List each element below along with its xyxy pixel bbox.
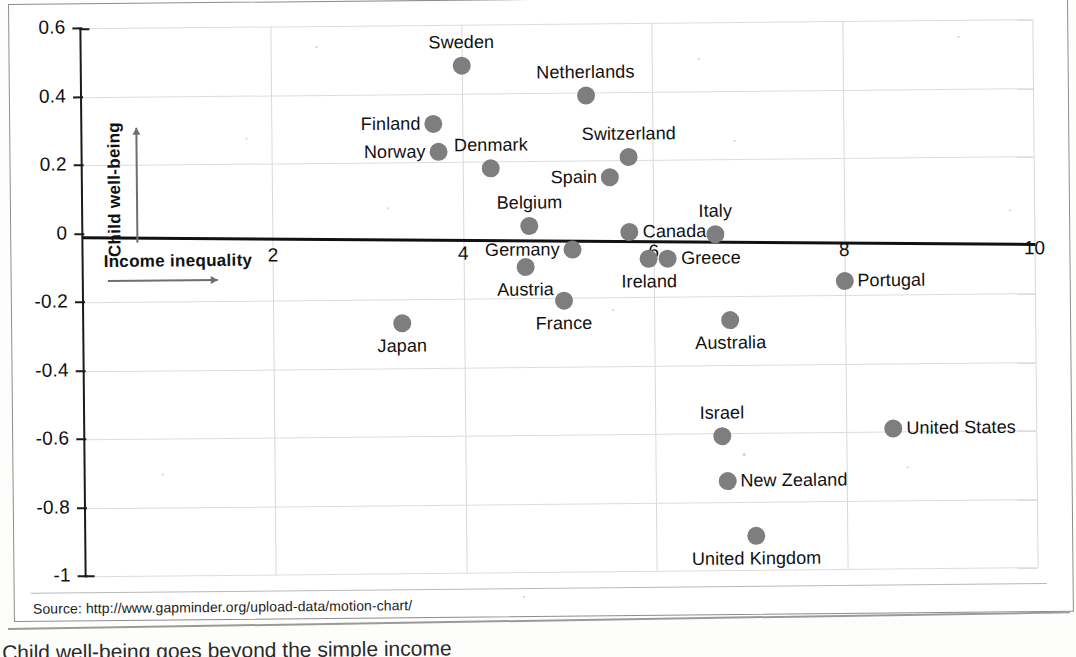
data-point-label: United States <box>906 416 1016 438</box>
data-points-layer: SwedenNetherlandsFinlandNorwayDenmarkSwi… <box>0 0 1073 5</box>
data-point-label: Australia <box>695 332 766 354</box>
scan-speckle <box>162 474 164 476</box>
data-point-label: Japan <box>377 335 427 356</box>
data-point[interactable] <box>564 241 582 259</box>
y-tick-mark <box>77 507 87 509</box>
data-point-label: United Kingdom <box>692 547 822 569</box>
data-point-label: Denmark <box>454 134 528 156</box>
data-point-label: Norway <box>364 141 426 163</box>
scan-speckle <box>1009 209 1011 211</box>
y-tick-mark <box>76 370 86 372</box>
data-point[interactable] <box>835 272 853 290</box>
gridline-horizontal <box>85 499 1037 509</box>
data-point[interactable] <box>482 159 500 177</box>
data-point-label: Israel <box>700 403 745 424</box>
x-tick-label: 10 <box>1024 237 1045 259</box>
data-point-label: Portugal <box>857 270 925 292</box>
data-point[interactable] <box>521 217 539 235</box>
scan-speckle <box>733 140 735 142</box>
scan-speckle <box>523 596 525 598</box>
y-tick-mark <box>73 96 83 98</box>
x-axis-description: Income inequality <box>104 251 253 272</box>
data-point-label: Finland <box>361 114 421 136</box>
data-point-label: Italy <box>698 201 732 222</box>
data-point[interactable] <box>706 225 724 243</box>
scan-speckle <box>387 207 389 209</box>
y-tick-mark <box>78 575 88 577</box>
source-note: Source: http://www.gapminder.org/upload-… <box>33 597 412 617</box>
data-point[interactable] <box>601 168 619 186</box>
data-point-label: Greece <box>681 248 741 270</box>
gridline-horizontal <box>81 88 1033 98</box>
scan-speckle <box>698 58 700 60</box>
y-axis-ticks: 0.60.40.20-0.2-0.4-0.6-0.8-1 <box>0 0 1073 5</box>
x-tick-label: 4 <box>458 242 469 264</box>
y-tick-label: 0 <box>56 222 67 244</box>
data-point[interactable] <box>620 148 638 166</box>
data-point-label: France <box>536 313 593 335</box>
data-point[interactable] <box>555 292 573 310</box>
y-axis-description: Child well-being <box>104 122 125 257</box>
y-tick-label: 0.2 <box>40 153 67 175</box>
data-point[interactable] <box>713 427 731 445</box>
y-tick-label: -1 <box>53 564 71 586</box>
data-point[interactable] <box>516 258 534 276</box>
scan-speckle <box>742 453 745 456</box>
data-point[interactable] <box>718 472 736 490</box>
y-tick-label: -0.6 <box>36 427 70 449</box>
data-point[interactable] <box>424 115 442 133</box>
x-axis-ticks: 246810 <box>0 0 1073 5</box>
y-tick-label: -0.2 <box>34 290 68 312</box>
data-point[interactable] <box>659 250 677 268</box>
scan-speckle <box>957 36 959 38</box>
data-point[interactable] <box>640 250 658 268</box>
data-point[interactable] <box>747 527 765 545</box>
gridline-horizontal <box>86 567 1038 577</box>
data-point-label: Sweden <box>428 32 494 54</box>
gridline-horizontal <box>80 19 1032 29</box>
y-tick-mark <box>74 164 84 166</box>
data-point[interactable] <box>393 314 411 332</box>
data-point[interactable] <box>884 419 902 437</box>
data-point-label: Netherlands <box>536 61 634 83</box>
source-divider <box>31 583 1047 594</box>
scatter-chart: 0.60.40.20-0.2-0.4-0.6-0.8-1 246810 Chil… <box>0 0 1076 657</box>
data-point-label: Canada <box>643 221 707 243</box>
data-point-label: Switzerland <box>582 123 676 145</box>
data-point-label: New Zealand <box>740 469 847 491</box>
data-point-label: Spain <box>551 167 598 188</box>
y-tick-label: 0.4 <box>39 85 66 107</box>
y-tick-label: -0.4 <box>35 359 69 381</box>
scan-speckle <box>612 309 614 311</box>
data-point-label: Austria <box>497 279 554 301</box>
y-tick-label: 0.6 <box>38 16 65 38</box>
y-tick-mark <box>76 438 86 440</box>
data-point[interactable] <box>576 86 594 104</box>
gridline-horizontal <box>84 362 1036 372</box>
data-point-label: Ireland <box>621 271 677 293</box>
y-tick-mark <box>74 233 84 235</box>
y-tick-mark <box>75 301 85 303</box>
data-point[interactable] <box>452 57 470 75</box>
data-point-label: Belgium <box>497 192 563 214</box>
data-point[interactable] <box>621 223 639 241</box>
scan-speckle <box>907 466 909 468</box>
gridline-horizontal <box>82 156 1034 166</box>
scan-speckle <box>316 46 318 48</box>
scan-speckle <box>245 138 247 140</box>
data-point[interactable] <box>429 143 447 161</box>
y-tick-mark <box>72 27 82 29</box>
y-tick-label: -0.8 <box>36 496 70 518</box>
data-point[interactable] <box>721 311 739 329</box>
x-tick-label: 2 <box>268 244 279 266</box>
